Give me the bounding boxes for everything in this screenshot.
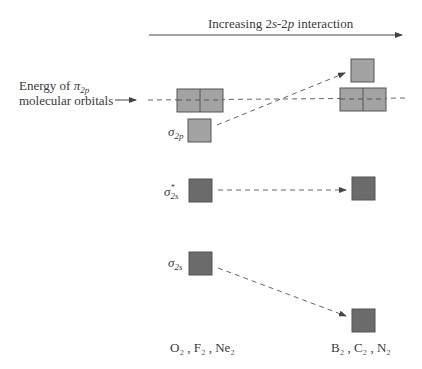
svg-text:molecular orbitals: molecular orbitals xyxy=(19,93,113,108)
sigma2p-shift-arrow xyxy=(217,73,345,125)
mo-diagram: Increasing 2s-2p interaction Energy of π… xyxy=(0,0,422,369)
interaction-axis: Increasing 2s-2p interaction xyxy=(149,16,402,35)
sigma2s-left-box xyxy=(189,252,212,275)
sigma-star-2s-label: σ*2s xyxy=(164,183,179,201)
sigma2s-shift-arrow xyxy=(218,268,346,316)
pi2p-energy-label: Energy of π2p molecular orbitals xyxy=(19,78,136,108)
sigma-star-2s-left-box xyxy=(189,179,212,202)
sigma2s-right-box xyxy=(352,309,375,332)
sigma2p-label: σ2p xyxy=(168,124,184,141)
left-column-label: O₂ , F₂ , Ne₂ xyxy=(170,340,235,355)
sigma2p-left-box xyxy=(188,119,211,142)
axis-label: Increasing 2s-2p interaction xyxy=(208,16,354,31)
sigma2s-label: σ2s xyxy=(168,255,183,272)
sigma-star-2s-right-box xyxy=(352,177,375,200)
right-column-label: B₂ , C₂ , N₂ xyxy=(331,340,391,355)
sigma2p-right-box xyxy=(351,59,374,82)
